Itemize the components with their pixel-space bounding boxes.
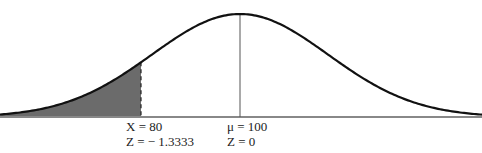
normal-curve-figure: X = 80 Z = − 1.3333 μ = 100 Z = 0 xyxy=(0,0,482,153)
z-value-label: Z = − 1.3333 xyxy=(126,135,194,149)
shaded-left-tail xyxy=(0,62,141,117)
x-value-label: X = 80 xyxy=(126,120,162,134)
mean-label: μ = 100 xyxy=(227,120,267,134)
z-zero-label: Z = 0 xyxy=(227,135,255,149)
normal-curve xyxy=(0,14,482,115)
